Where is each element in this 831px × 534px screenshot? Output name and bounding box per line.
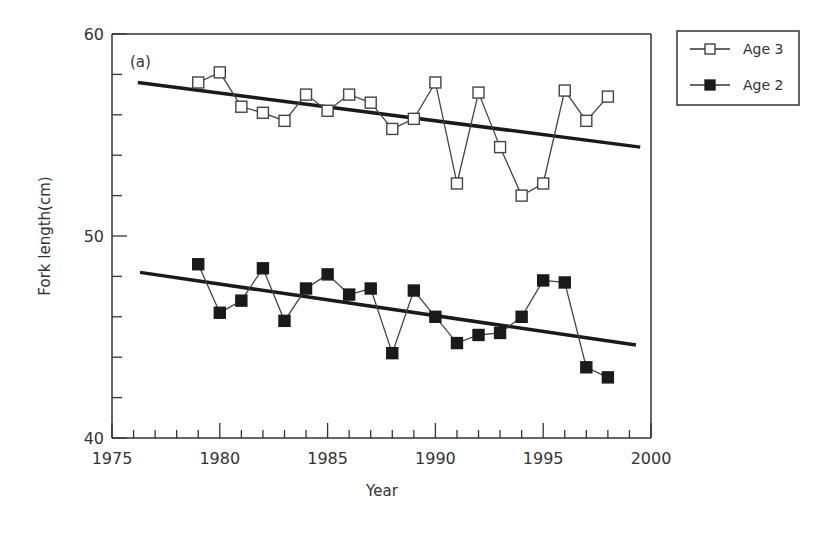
open-square-marker [322,105,333,116]
y-tick-label: 50 [84,227,104,246]
open-square-marker [538,178,549,189]
filled-square-marker [581,362,592,373]
filled-square-marker [387,348,398,359]
chart: 405060197519801985199019952000 (a) Year … [0,0,831,534]
open-square-marker [451,178,462,189]
open-square-marker [473,87,484,98]
filled-square-marker [538,275,549,286]
filled-square-marker [516,311,527,322]
filled-square-marker [214,307,225,318]
filled-square-marker [322,269,333,280]
open-square-marker [559,85,570,96]
filled-square-marker [408,285,419,296]
filled-square-marker [365,283,376,294]
filled-square-marker [430,311,441,322]
filled-square-marker [257,263,268,274]
x-tick-label: 1995 [523,449,564,468]
y-tick-label: 60 [84,25,104,44]
filled-square-marker [344,289,355,300]
legend-label: Age 2 [743,77,783,93]
open-square-marker [193,77,204,88]
filled-square-marker [236,295,247,306]
filled-square-marker [279,315,290,326]
open-square-marker-icon [705,44,715,54]
open-square-marker [387,123,398,134]
open-square-marker [301,89,312,100]
x-tick-label: 1980 [199,449,240,468]
x-tick-label: 1975 [92,449,133,468]
legend: Age 3 Age 2 [677,31,799,105]
plot-area: 405060197519801985199019952000 [84,25,672,468]
filled-square-marker [559,277,570,288]
y-tick-label: 40 [84,429,104,448]
open-square-marker [365,97,376,108]
open-square-marker [581,115,592,126]
open-square-marker [279,115,290,126]
open-square-marker [236,101,247,112]
filled-square-marker [602,372,613,383]
open-square-marker [344,89,355,100]
legend-label: Age 3 [743,41,783,57]
open-square-marker [408,113,419,124]
filled-square-marker [451,338,462,349]
x-tick-label: 2000 [631,449,672,468]
open-square-marker [430,77,441,88]
open-square-marker [257,107,268,118]
open-square-marker [495,142,506,153]
panel-label: (a) [130,53,151,71]
y-axis-title: Fork length(cm) [36,176,54,295]
x-tick-label: 1990 [415,449,456,468]
filled-square-marker [193,259,204,270]
open-square-marker [516,190,527,201]
x-tick-label: 1985 [307,449,348,468]
filled-square-marker [301,283,312,294]
open-square-marker [214,67,225,78]
open-square-marker [602,91,613,102]
filled-square-marker [495,327,506,338]
x-axis-title: Year [365,482,399,500]
filled-square-marker [473,329,484,340]
filled-square-marker-icon [705,80,715,90]
